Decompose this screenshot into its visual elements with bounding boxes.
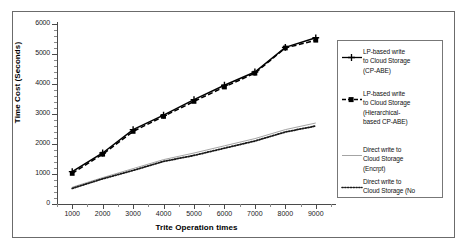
y-tick-label: 1000	[0, 169, 50, 176]
plot-area	[57, 24, 331, 204]
data-point	[192, 99, 197, 104]
y-tick-label: 2000	[0, 139, 50, 146]
data-point	[283, 46, 288, 51]
x-axis-title: Trite Operation times	[57, 223, 336, 232]
legend-marker-icon	[341, 90, 363, 99]
x-tick-minor	[331, 204, 332, 207]
data-point	[131, 129, 136, 134]
x-tick-minor	[240, 204, 241, 207]
x-tick-minor	[179, 204, 180, 207]
legend-marker-icon	[341, 178, 363, 187]
legend-label: Direct write to Cloud Storage (No	[363, 177, 415, 196]
legend-label: LP-based write to Cloud Storage (CP-ABE)	[363, 47, 410, 75]
series-0	[69, 34, 319, 175]
data-point	[161, 114, 166, 119]
x-tick	[72, 204, 73, 209]
y-tick-label: 0	[0, 199, 50, 206]
data-point	[313, 38, 318, 43]
x-tick	[285, 204, 286, 209]
series-3	[72, 126, 316, 188]
legend-item-1[interactable]: LP-based write to Cloud Storage (Hierarc…	[341, 89, 410, 126]
legend-item-0[interactable]: LP-based write to Cloud Storage (CP-ABE)	[341, 47, 410, 75]
x-axis-line	[57, 204, 336, 205]
y-tick-label: 4000	[0, 79, 50, 86]
x-tick-minor	[148, 204, 149, 207]
chart-legend: LP-based write to Cloud Storage (CP-ABE)…	[337, 40, 443, 198]
x-tick	[316, 204, 317, 209]
x-tick	[224, 204, 225, 209]
x-tick-minor	[57, 204, 58, 207]
y-axis-title: Time Cost (Seconds)	[13, 3, 22, 163]
x-tick-minor	[209, 204, 210, 207]
y-tick-label: 5000	[0, 49, 50, 56]
data-point	[252, 71, 257, 76]
data-point	[100, 152, 105, 157]
x-tick	[255, 204, 256, 209]
x-tick	[164, 204, 165, 209]
x-tick-minor	[118, 204, 119, 207]
data-point	[222, 85, 227, 90]
chart-figure: 0100020003000400050006000 10002000300040…	[0, 0, 468, 251]
x-tick-minor	[87, 204, 88, 207]
legend-label: LP-based write to Cloud Storage (Hierarc…	[363, 89, 410, 126]
y-tick-label: 3000	[0, 109, 50, 116]
x-tick-label: 9000	[296, 210, 336, 217]
data-point	[70, 171, 75, 176]
x-tick-minor	[270, 204, 271, 207]
legend-item-3[interactable]: Direct write to Cloud Storage (No	[341, 177, 415, 196]
legend-item-2[interactable]: Direct write to Cloud Storage (Encrpt)	[341, 145, 403, 173]
legend-marker-icon	[341, 48, 363, 57]
data-series-layer	[57, 24, 331, 204]
y-tick-label: 6000	[0, 19, 50, 26]
legend-label: Direct write to Cloud Storage (Encrpt)	[363, 145, 403, 173]
x-tick	[103, 204, 104, 209]
x-tick	[194, 204, 195, 209]
x-tick-minor	[301, 204, 302, 207]
legend-marker-icon	[341, 146, 363, 155]
x-tick	[133, 204, 134, 209]
